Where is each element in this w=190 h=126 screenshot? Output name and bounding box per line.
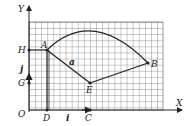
point-b <box>146 61 149 64</box>
point-c <box>88 108 91 111</box>
label-h: H <box>17 45 26 55</box>
label-g: G <box>18 78 25 88</box>
label-j: j <box>18 64 24 74</box>
label-e: E <box>85 85 93 95</box>
label-b: B <box>150 59 158 69</box>
label-a: A <box>40 40 48 50</box>
label-c: C <box>85 113 92 123</box>
point-g <box>27 81 30 84</box>
label-o: O <box>18 109 26 119</box>
label-d: D <box>42 113 50 123</box>
label-a-vector: a <box>69 57 75 67</box>
point-d <box>45 108 48 111</box>
geometry-diagram: Y X O H A j G D i C E B a <box>0 0 190 126</box>
label-x: X <box>175 98 183 108</box>
point-h <box>27 48 30 51</box>
label-i: i <box>66 113 70 123</box>
label-y: Y <box>18 4 25 14</box>
